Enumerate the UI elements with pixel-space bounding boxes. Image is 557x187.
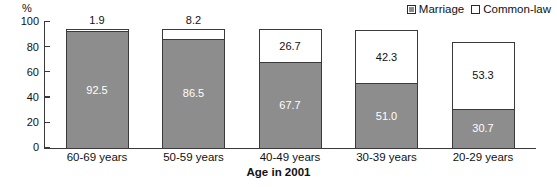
bar-value-label-common-law: 8.2	[186, 15, 201, 26]
bar-value-label-marriage: 30.7	[472, 123, 493, 134]
stacked-bar-chart: Marriage Common-law % 020406080100 1.992…	[0, 0, 557, 187]
bar-stack[interactable]: 1.992.5	[66, 29, 129, 148]
x-category-label: 60-69 years	[48, 151, 146, 163]
hollow-square-icon	[471, 5, 480, 14]
bar-value-label-marriage: 51.0	[376, 111, 397, 122]
legend-entry-marriage: Marriage	[407, 4, 464, 16]
y-tick-label: 0	[33, 141, 39, 153]
y-tick-label: 60	[27, 66, 39, 78]
plot-area: 020406080100 1.992.58.286.526.767.742.35…	[44, 22, 536, 148]
bar-segment-common-law[interactable]: 26.7	[260, 30, 321, 63]
x-category-label: 30-39 years	[337, 151, 435, 163]
bar-segment-marriage[interactable]: 30.7	[453, 110, 514, 148]
legend-label-common-law: Common-law	[483, 4, 551, 16]
x-axis-line	[44, 148, 536, 149]
legend-entry-common-law: Common-law	[471, 4, 551, 16]
x-category-label: 50-59 years	[144, 151, 242, 163]
y-tick-label: 40	[27, 91, 39, 103]
y-axis-unit-label: %	[22, 2, 32, 14]
bar-value-label-common-law: 42.3	[376, 52, 397, 63]
legend-label-marriage: Marriage	[419, 4, 464, 16]
bar-value-label-marriage: 86.5	[183, 88, 204, 99]
filled-square-icon	[407, 5, 416, 14]
x-category-label: 20-29 years	[434, 151, 532, 163]
bar-segment-marriage[interactable]: 67.7	[260, 63, 321, 148]
bar-stack[interactable]: 53.330.7	[452, 42, 515, 148]
bar-segment-common-law[interactable]: 42.3	[356, 31, 417, 84]
bar-segment-marriage[interactable]: 92.5	[67, 32, 128, 148]
bar-segment-common-law[interactable]: 53.3	[453, 43, 514, 110]
y-tick-label: 80	[27, 41, 39, 53]
bar-series-container: 1.992.58.286.526.767.742.351.053.330.7	[44, 22, 536, 148]
bar-value-label-marriage: 67.7	[279, 100, 300, 111]
x-axis-title: Age in 2001	[0, 166, 557, 178]
bar-value-label-marriage: 92.5	[86, 85, 107, 96]
bar-stack[interactable]: 26.767.7	[259, 29, 322, 148]
y-tick-label: 100	[21, 15, 39, 27]
bar-stack[interactable]: 42.351.0	[355, 30, 418, 148]
bar-segment-marriage[interactable]: 86.5	[163, 40, 224, 148]
chart-legend: Marriage Common-law	[407, 4, 551, 16]
bar-segment-marriage[interactable]: 51.0	[356, 84, 417, 148]
x-axis-category-labels: 60-69 years50-59 years40-49 years30-39 y…	[44, 151, 536, 167]
x-category-label: 40-49 years	[241, 151, 339, 163]
y-tick-label: 20	[27, 116, 39, 128]
bar-value-label-common-law: 1.9	[89, 15, 104, 26]
bar-value-label-common-law: 53.3	[472, 70, 493, 81]
bar-stack[interactable]: 8.286.5	[162, 29, 225, 148]
bar-value-label-common-law: 26.7	[279, 41, 300, 52]
bar-segment-common-law[interactable]: 8.2	[163, 30, 224, 40]
